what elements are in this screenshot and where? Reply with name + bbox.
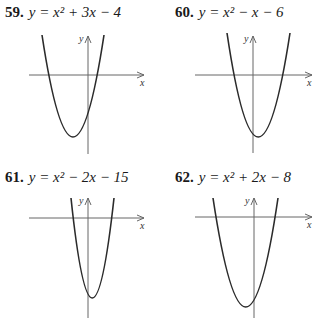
y-axis-label: y xyxy=(78,33,84,44)
y-axis-label: y xyxy=(243,33,249,44)
x-axis-label: x xyxy=(139,220,145,231)
parabola-curve xyxy=(213,198,278,307)
x-axis-label: x xyxy=(306,77,312,88)
parabola-curve xyxy=(71,198,114,298)
y-axis-label: y xyxy=(244,195,250,206)
graph-62: x y xyxy=(195,195,312,318)
graph-61: x y xyxy=(29,195,145,318)
parabola-curve xyxy=(42,35,104,137)
graphs-canvas: x y x y x y x y xyxy=(0,0,317,336)
x-axis-label: x xyxy=(306,219,312,230)
x-axis-label: x xyxy=(139,77,145,88)
y-axis-label: y xyxy=(78,195,84,206)
parabola-curve xyxy=(227,33,290,137)
graph-59: x y xyxy=(29,33,145,154)
graph-60: x y xyxy=(195,33,312,153)
